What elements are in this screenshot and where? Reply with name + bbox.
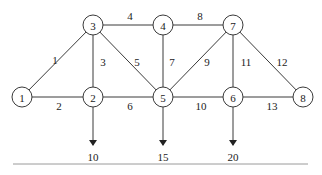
node-6: 6: [223, 87, 243, 107]
edge-label: 5: [134, 56, 140, 68]
network-diagram: 12345678910111213 101520 12345678: [0, 0, 322, 175]
node-label: 6: [230, 92, 236, 104]
node-label: 3: [90, 20, 96, 32]
node-label: 5: [160, 92, 166, 104]
edge-label: 2: [56, 100, 62, 112]
node-4: 4: [153, 15, 173, 35]
edge-label: 8: [197, 10, 203, 22]
node-3: 3: [83, 15, 103, 35]
edge-label: 6: [127, 100, 133, 112]
node-label: 8: [300, 92, 306, 104]
edge-label: 13: [267, 100, 279, 112]
node-2: 2: [83, 87, 103, 107]
edge-label: 3: [100, 56, 106, 68]
demand-label: 20: [228, 151, 240, 163]
edge-label: 12: [277, 56, 288, 68]
edge-label: 10: [196, 100, 208, 112]
demand-label: 15: [158, 151, 170, 163]
node-1: 1: [12, 87, 32, 107]
node-label: 2: [90, 92, 96, 104]
node-7: 7: [223, 15, 243, 35]
edge-label: 11: [241, 56, 252, 68]
edge-label: 9: [204, 56, 210, 68]
edge-label: 1: [52, 54, 58, 66]
demand-label: 10: [88, 151, 100, 163]
node-5: 5: [153, 87, 173, 107]
node-8: 8: [293, 87, 313, 107]
edge-label: 4: [127, 10, 133, 22]
node-label: 7: [230, 20, 236, 32]
demand-arrows-group: 101520: [88, 107, 240, 163]
node-label: 1: [19, 92, 25, 104]
edge-label: 7: [169, 56, 175, 68]
node-label: 4: [160, 20, 166, 32]
